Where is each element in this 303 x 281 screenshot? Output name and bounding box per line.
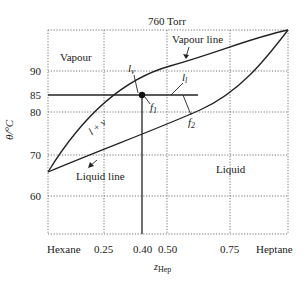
- vapour-line-label: Vapour line: [172, 34, 223, 45]
- state-point: [139, 92, 145, 98]
- vapour-region-label: Vapour: [60, 52, 92, 63]
- x-axis-label-sub: Hep: [158, 265, 171, 274]
- f1-label: f1: [150, 102, 157, 115]
- chart-title: 760 Torr: [148, 16, 186, 27]
- y-tick-70: 70: [30, 150, 41, 161]
- y-axis-label: θ/°C: [4, 120, 15, 140]
- vapour-line-arrow-icon: [183, 54, 189, 59]
- x-tick-hexane: Hexane: [47, 244, 81, 255]
- x-tick-0-75: 0.75: [220, 244, 239, 255]
- lv-label-sub: v: [131, 67, 135, 76]
- lv-label: lv: [128, 63, 135, 76]
- phase-diagram-plot: [0, 0, 303, 281]
- liquid-region-label: Liquid: [216, 164, 245, 175]
- x-tick-heptane: Heptane: [256, 244, 293, 255]
- f2-label-sub: 2: [191, 121, 195, 130]
- x-tick-0-40: 0.40: [133, 244, 152, 255]
- ll-label: ll: [182, 72, 187, 85]
- x-tick-0-50: 0.50: [158, 244, 177, 255]
- y-tick-80: 80: [30, 107, 41, 118]
- y-tick-85: 85: [30, 90, 41, 101]
- y-tick-60: 60: [30, 191, 41, 202]
- f2-label: f2: [188, 117, 195, 130]
- f1-label-sub: 1: [153, 106, 157, 115]
- y-tick-90: 90: [30, 66, 41, 77]
- ll-label-sub: l: [185, 76, 187, 85]
- x-axis-label: zHep: [154, 262, 171, 274]
- x-tick-0-25: 0.25: [94, 244, 113, 255]
- liquid-line-label: Liquid line: [76, 171, 125, 182]
